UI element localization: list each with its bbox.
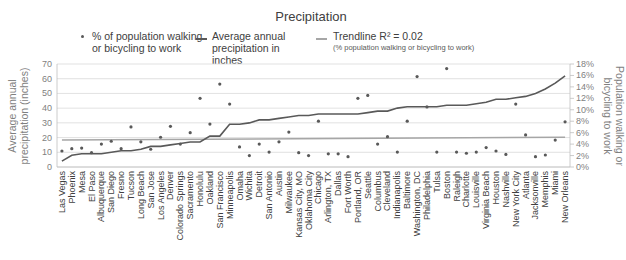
walk-bike-point bbox=[90, 151, 93, 154]
walk-bike-point bbox=[356, 97, 359, 100]
walk-bike-point bbox=[524, 133, 527, 136]
x-tick-label: Virginia Beach bbox=[481, 171, 491, 229]
x-tick-label: Baltimore bbox=[402, 171, 412, 209]
x-tick-label: Sacramento bbox=[185, 171, 195, 220]
walk-bike-point bbox=[554, 139, 557, 142]
walk-bike-point bbox=[494, 149, 497, 152]
precipitation-line bbox=[62, 76, 565, 161]
walk-bike-point bbox=[70, 147, 73, 150]
x-tick-label: Las Vegas bbox=[57, 171, 67, 214]
x-tick-label: Arlington, TX bbox=[323, 171, 333, 223]
y2-tick-label: 12% bbox=[576, 93, 594, 103]
walk-bike-point bbox=[139, 140, 142, 143]
walk-bike-point bbox=[425, 105, 428, 108]
y2-tick-label: 10% bbox=[576, 105, 594, 115]
walk-bike-point bbox=[504, 153, 507, 156]
y2-tick-label: 0% bbox=[576, 162, 589, 172]
y2-tick-label: 6% bbox=[576, 128, 589, 138]
walk-bike-point bbox=[337, 152, 340, 155]
y-tick-label: 40 bbox=[42, 103, 52, 113]
walk-bike-point bbox=[238, 145, 241, 148]
y-tick-label: 70 bbox=[42, 59, 52, 69]
walk-bike-point bbox=[179, 143, 182, 146]
walk-bike-point bbox=[475, 151, 478, 154]
walk-bike-point bbox=[327, 152, 330, 155]
walk-bike-point bbox=[415, 75, 418, 78]
x-tick-label: Indianapolis bbox=[392, 171, 402, 220]
x-tick-label: Dallas bbox=[333, 171, 343, 197]
walk-bike-point bbox=[534, 155, 537, 158]
walk-bike-point bbox=[159, 136, 162, 139]
y-tick-label: 0 bbox=[47, 162, 52, 172]
walk-bike-point bbox=[248, 154, 251, 157]
y2-tick-label: 14% bbox=[576, 82, 594, 92]
x-tick-label: New York City bbox=[511, 171, 521, 228]
walk-bike-point bbox=[149, 148, 152, 151]
walk-bike-point bbox=[297, 151, 300, 154]
walk-bike-point bbox=[396, 151, 399, 154]
x-tick-label: San Francisco bbox=[215, 171, 225, 229]
x-tick-label: San Antonio bbox=[264, 171, 274, 220]
x-tick-label: Cleveland bbox=[382, 171, 392, 211]
walk-bike-point bbox=[208, 122, 211, 125]
walk-bike-point bbox=[307, 154, 310, 157]
x-tick-label: El Paso bbox=[87, 171, 97, 202]
x-tick-label: Albuquerque bbox=[96, 171, 106, 222]
y2-tick-label: 2% bbox=[576, 151, 589, 161]
x-tick-label: Denver bbox=[165, 171, 175, 200]
x-tick-label: San Diego bbox=[106, 171, 116, 213]
walk-bike-point bbox=[258, 143, 261, 146]
x-tick-label: Fort Worth bbox=[343, 171, 353, 213]
x-tick-label: Austin bbox=[274, 171, 284, 196]
walk-bike-point bbox=[317, 120, 320, 123]
x-tick-label: Long Beach bbox=[136, 171, 146, 219]
y2-tick-label: 4% bbox=[576, 139, 589, 149]
x-tick-label: Raleigh bbox=[452, 171, 462, 202]
x-tick-label: Louisville bbox=[471, 171, 481, 208]
y2-tick-label: 8% bbox=[576, 116, 589, 126]
x-tick-label: Columbus bbox=[373, 171, 383, 212]
x-tick-label: Minneapolis bbox=[225, 171, 235, 220]
walk-bike-point bbox=[277, 140, 280, 143]
x-tick-label: Colorado Springs bbox=[175, 171, 185, 241]
x-tick-label: Washington, DC bbox=[412, 171, 422, 237]
walk-bike-point bbox=[485, 146, 488, 149]
x-tick-label: Oakland bbox=[205, 171, 215, 205]
x-tick-label: Mesa bbox=[77, 171, 87, 193]
walk-bike-point bbox=[80, 147, 83, 150]
walk-bike-point bbox=[465, 152, 468, 155]
walk-bike-point bbox=[346, 155, 349, 158]
y2-tick-label: 18% bbox=[576, 59, 594, 69]
x-tick-label: Tulsa bbox=[432, 171, 442, 193]
x-tick-label: Portland, OR bbox=[353, 171, 363, 224]
walk-bike-point bbox=[287, 130, 290, 133]
walk-bike-point bbox=[366, 94, 369, 97]
walk-bike-point bbox=[544, 153, 547, 156]
walk-bike-point bbox=[455, 151, 458, 154]
x-tick-label: Chicago bbox=[313, 171, 323, 204]
y-tick-label: 20 bbox=[42, 133, 52, 143]
x-tick-label: San Jose bbox=[146, 171, 156, 209]
walk-bike-point bbox=[198, 97, 201, 100]
walk-bike-point bbox=[60, 149, 63, 152]
walk-bike-point bbox=[129, 125, 132, 128]
walk-bike-point bbox=[563, 120, 566, 123]
x-tick-label: Los Angeles bbox=[156, 171, 166, 221]
y-tick-label: 10 bbox=[42, 147, 52, 157]
x-tick-label: Wichita bbox=[244, 171, 254, 201]
walk-bike-point bbox=[228, 102, 231, 105]
walk-bike-point bbox=[110, 140, 113, 143]
x-tick-label: Boston bbox=[442, 171, 452, 199]
x-tick-label: New Orleans bbox=[560, 171, 570, 224]
y-tick-label: 50 bbox=[42, 88, 52, 98]
walk-bike-point bbox=[386, 135, 389, 138]
walk-bike-point bbox=[376, 143, 379, 146]
x-tick-label: Atlanta bbox=[521, 171, 531, 199]
walk-bike-point bbox=[406, 120, 409, 123]
y-tick-label: 30 bbox=[42, 118, 52, 128]
x-tick-label: Fresno bbox=[116, 171, 126, 199]
x-tick-label: Memphis bbox=[540, 171, 550, 208]
walk-bike-point bbox=[189, 131, 192, 134]
x-tick-label: Omaha bbox=[235, 171, 245, 201]
